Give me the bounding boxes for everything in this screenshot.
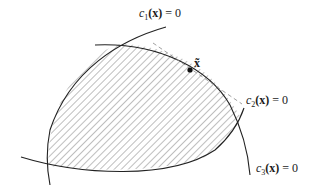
point-x [187, 67, 192, 72]
c1-label: c1(x) = 0 [139, 6, 181, 22]
c3-arg: (x) [265, 161, 279, 175]
c2-label: c2(x) = 0 [246, 93, 288, 109]
c1-rhs: = 0 [165, 6, 181, 20]
c3-rhs: = 0 [282, 161, 298, 175]
c2-arg: (x) [255, 93, 269, 107]
feasible-region [49, 44, 241, 170]
point-label: x̃ [194, 56, 200, 71]
c3-label: c3(x) = 0 [256, 161, 298, 177]
c2-rhs: = 0 [272, 93, 288, 107]
c1-arg: (x) [148, 6, 162, 20]
